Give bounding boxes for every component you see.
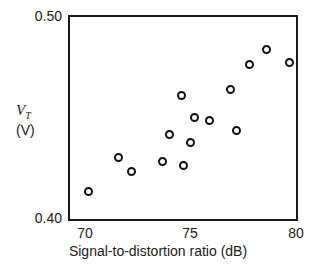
y-axis-subscript: T	[25, 110, 31, 121]
data-point	[190, 113, 199, 122]
data-point	[179, 161, 188, 170]
data-point	[205, 116, 214, 125]
data-point	[127, 167, 136, 176]
y-axis-tick-label-bottom: 0.40	[28, 211, 62, 225]
data-point	[262, 45, 271, 54]
x-axis-tick-label-70: 70	[77, 226, 93, 240]
data-point	[158, 157, 167, 166]
y-axis-unit: (V)	[16, 123, 64, 138]
x-axis-tick-label-80: 80	[288, 226, 304, 240]
scatter-chart-figure: 0.50 0.40 70 75 80 VT (V) Signal-to-dist…	[0, 0, 316, 273]
data-point	[165, 130, 174, 139]
data-point	[177, 91, 186, 100]
data-point	[226, 85, 235, 94]
data-point	[245, 60, 254, 69]
x-axis-title: Signal-to-distortion ratio (dB)	[0, 243, 316, 259]
plot-area-frame	[68, 15, 298, 221]
y-axis-title: VT (V)	[16, 103, 64, 138]
data-point	[186, 138, 195, 147]
y-axis-tick-label-top: 0.50	[28, 9, 62, 23]
data-points-layer	[70, 17, 296, 219]
data-point	[285, 58, 294, 67]
x-axis-tick-label-75: 75	[182, 226, 198, 240]
y-axis-symbol: V	[16, 102, 25, 118]
data-point	[232, 126, 241, 135]
data-point	[114, 153, 123, 162]
data-point	[84, 187, 93, 196]
